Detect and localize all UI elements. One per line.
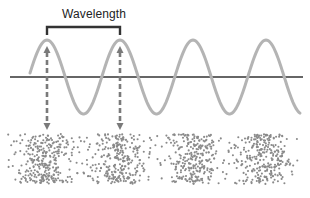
particle-field bbox=[7, 133, 298, 185]
correspondence-arrows bbox=[44, 46, 124, 130]
wavelength-label: Wavelength bbox=[52, 7, 136, 21]
wavelength-bracket bbox=[47, 27, 120, 35]
wave-diagram: Wavelength bbox=[0, 0, 310, 198]
wave-illustration bbox=[0, 0, 310, 198]
double-arrow-2 bbox=[117, 46, 124, 130]
arrowhead-down-icon bbox=[117, 123, 124, 130]
arrowhead-down-icon bbox=[44, 123, 51, 130]
arrowhead-up-icon bbox=[117, 46, 124, 53]
arrowhead-up-icon bbox=[44, 46, 51, 53]
double-arrow-1 bbox=[44, 46, 51, 130]
